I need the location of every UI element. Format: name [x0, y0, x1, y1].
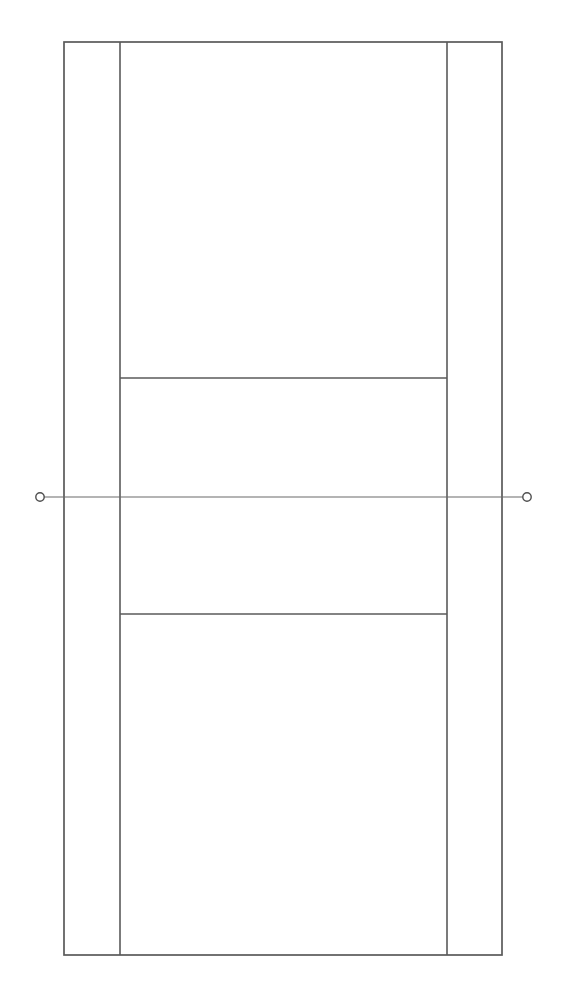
- right-net-post: [523, 493, 531, 501]
- doubles-court-boundary: [64, 42, 502, 955]
- court-diagram-canvas: [0, 0, 564, 1000]
- left-net-post: [36, 493, 44, 501]
- court-diagram-svg: [0, 0, 564, 1000]
